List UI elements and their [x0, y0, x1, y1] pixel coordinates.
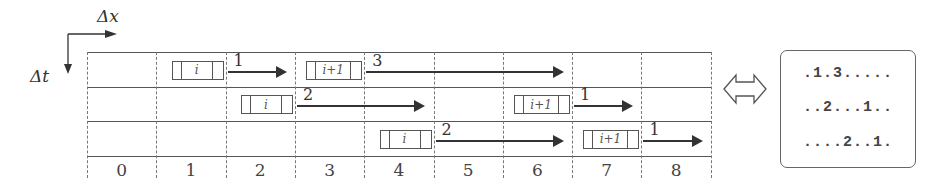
column-divider: [295, 52, 296, 178]
vehicle-label: i: [251, 96, 282, 113]
column-label: 2: [240, 160, 280, 180]
cell-segment: [173, 62, 182, 79]
column-label: 0: [102, 160, 142, 180]
column-divider: [572, 52, 573, 178]
encoding-line-2: ..2...1..: [781, 99, 915, 116]
column-label: 4: [379, 160, 419, 180]
column-label: 3: [310, 160, 350, 180]
cell-segment: [351, 62, 361, 79]
cell-segment: [381, 131, 390, 148]
delta-t-label: Δt: [30, 66, 49, 86]
column-label: 5: [448, 160, 488, 180]
column-divider: [711, 52, 712, 178]
cell-segment: [421, 131, 431, 148]
column-divider: [226, 52, 227, 178]
vehicle-label: i: [182, 62, 213, 79]
cell-segment: [242, 96, 251, 113]
vehicle-label: i+1: [316, 62, 351, 79]
vehicle-label: i+1: [593, 131, 628, 148]
velocity-arrow-icon: [228, 71, 285, 73]
cell-segment: [213, 62, 223, 79]
encoding-box: .1.3..... ..2...1.. ....2..1.: [780, 50, 916, 168]
cell-segment: [515, 96, 524, 113]
velocity-label: 3: [372, 51, 382, 70]
velocity-label: 1: [234, 51, 244, 70]
velocity-arrow-icon: [366, 71, 562, 73]
row-divider: [87, 52, 711, 53]
cell-segment: [584, 131, 593, 148]
velocity-label: 1: [580, 85, 590, 104]
cell-segment: [559, 96, 569, 113]
column-label: 1: [171, 160, 211, 180]
velocity-label: 2: [442, 120, 452, 139]
vehicle-label: i: [390, 131, 421, 148]
encoding-line-1: .1.3.....: [781, 65, 915, 82]
column-divider: [641, 52, 642, 178]
column-divider: [87, 52, 88, 178]
velocity-arrow-icon: [574, 105, 631, 107]
vehicle-cell-block: i+1: [306, 61, 362, 80]
vehicle-cell-block: i+1: [514, 95, 570, 114]
velocity-arrow-icon: [643, 140, 700, 142]
delta-x-label: Δx: [97, 6, 119, 26]
column-divider: [156, 52, 157, 178]
row-divider: [87, 121, 711, 122]
column-label: 7: [587, 160, 627, 180]
vehicle-label: i+1: [524, 96, 559, 113]
vehicle-cell-block: i: [172, 61, 224, 80]
column-label: 6: [517, 160, 557, 180]
cell-segment: [282, 96, 292, 113]
axis-arrows-icon: [60, 28, 120, 78]
vehicle-cell-block: i+1: [583, 130, 639, 149]
vehicle-cell-block: i: [380, 130, 432, 149]
velocity-label: 2: [303, 85, 313, 104]
velocity-label: 1: [649, 120, 659, 139]
row-divider: [87, 87, 711, 88]
column-divider: [364, 52, 365, 178]
vehicle-cell-block: i: [241, 95, 293, 114]
velocity-arrow-icon: [297, 105, 424, 107]
velocity-arrow-icon: [436, 140, 563, 142]
row-divider: [87, 156, 711, 157]
column-label: 8: [656, 160, 696, 180]
encoding-line-3: ....2..1.: [781, 134, 915, 151]
double-arrow-icon: [722, 70, 768, 108]
cell-segment: [307, 62, 316, 79]
cell-segment: [628, 131, 638, 148]
